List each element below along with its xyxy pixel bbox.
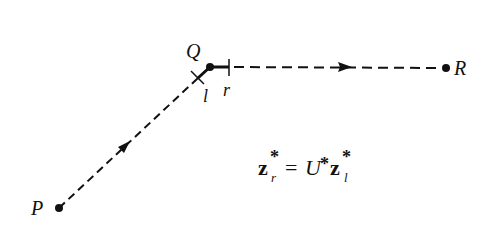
- point-q: [206, 63, 214, 71]
- eq-rhs-sub: l: [344, 170, 348, 185]
- eq-lhs-base: z: [258, 155, 268, 180]
- diagram-canvas: P Q R l r z * r = U * z * l: [0, 0, 491, 249]
- label-l-mark: l: [203, 86, 208, 106]
- point-r: [442, 64, 450, 72]
- eq-operator-sup: *: [320, 154, 329, 174]
- point-p: [55, 204, 63, 212]
- label-p: P: [30, 197, 43, 219]
- arrow-qr-icon: [338, 62, 352, 72]
- eq-lhs-sup: *: [270, 147, 279, 167]
- path-qr: [234, 67, 440, 68]
- eq-rhs-base: z: [330, 155, 340, 180]
- eq-rhs-sup: *: [342, 147, 351, 167]
- label-q: Q: [186, 40, 201, 62]
- eq-equals: =: [285, 155, 297, 180]
- label-r-point: R: [453, 57, 466, 79]
- equation: z * r = U * z * l: [258, 147, 351, 185]
- eq-lhs-sub: r: [271, 170, 277, 185]
- label-r-mark: r: [223, 80, 231, 100]
